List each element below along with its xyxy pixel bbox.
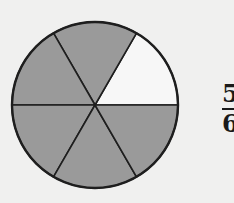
fraction-numerator: 5 [222, 82, 234, 106]
fraction-circle-diagram [0, 0, 234, 203]
fraction-denominator: 6 [222, 112, 234, 136]
fraction-label: 5 6 [222, 82, 234, 136]
